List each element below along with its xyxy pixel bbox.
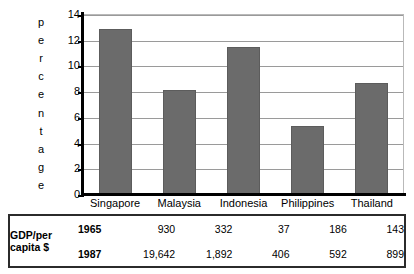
value-cell: 1,892 bbox=[175, 241, 232, 266]
x-axis-category-label: Malaysia bbox=[147, 196, 211, 210]
bar-chart: p e r c e n t a g e 02468101214 Singapor… bbox=[0, 0, 414, 206]
y-axis-title-letter: e bbox=[38, 32, 44, 49]
x-axis-category-labels: SingaporeMalaysiaIndonesiaPhilippinesTha… bbox=[83, 196, 404, 212]
gridline bbox=[83, 15, 403, 16]
x-axis-category-label: Indonesia bbox=[211, 196, 275, 210]
y-axis-title-letter: r bbox=[39, 50, 43, 67]
y-axis-tick-labels: 02468101214 bbox=[56, 0, 80, 206]
y-axis-title-letter: a bbox=[38, 141, 44, 158]
gdp-row-label-line1: GDP/per bbox=[10, 229, 78, 241]
y-axis-title-letter: t bbox=[39, 123, 42, 140]
y-axis-tick-label: 12 bbox=[56, 34, 80, 45]
value-cell: 143 bbox=[347, 216, 404, 241]
value-cell: 406 bbox=[232, 241, 289, 266]
gdp-table: GDP/per capita $ 1965 930 332 37 186 143… bbox=[10, 216, 404, 266]
y-axis-tick-label: 4 bbox=[56, 137, 80, 148]
bar bbox=[291, 126, 324, 195]
year-cell: 1965 bbox=[78, 216, 118, 241]
y-axis-tick-label: 8 bbox=[56, 86, 80, 97]
value-cell: 899 bbox=[347, 241, 404, 266]
gdp-row-label-line2: capita $ bbox=[10, 241, 78, 253]
value-cell: 186 bbox=[290, 216, 347, 241]
gdp-table-panel: GDP/per capita $ 1965 930 332 37 186 143… bbox=[8, 214, 406, 268]
y-axis-title-letter: e bbox=[38, 86, 44, 103]
y-axis-tick-label: 6 bbox=[56, 111, 80, 122]
y-axis-title-letter: p bbox=[38, 14, 44, 31]
x-axis-category-label: Philippines bbox=[276, 196, 340, 210]
value-cell: 930 bbox=[118, 216, 175, 241]
y-axis-tick-label: 0 bbox=[56, 189, 80, 200]
value-cell: 592 bbox=[290, 241, 347, 266]
bar bbox=[99, 29, 132, 195]
plot-area bbox=[83, 14, 404, 194]
y-axis-tick-label: 14 bbox=[56, 9, 80, 20]
y-axis-title-letter: c bbox=[38, 68, 44, 85]
bar bbox=[163, 90, 196, 195]
bar bbox=[227, 47, 260, 195]
year-cell: 1987 bbox=[78, 241, 118, 266]
value-cell: 332 bbox=[175, 216, 232, 241]
value-cell: 19,642 bbox=[118, 241, 175, 266]
x-axis-category-label: Thailand bbox=[340, 196, 404, 210]
y-axis-tick-label: 10 bbox=[56, 60, 80, 71]
y-axis-title: p e r c e n t a g e bbox=[33, 14, 49, 194]
y-axis-title-letter: n bbox=[38, 105, 44, 122]
bar bbox=[355, 83, 388, 195]
gdp-row-label: GDP/per capita $ bbox=[10, 216, 78, 266]
x-axis-category-label: Singapore bbox=[83, 196, 147, 210]
chart-figure: p e r c e n t a g e 02468101214 Singapor… bbox=[0, 0, 414, 274]
table-row: GDP/per capita $ 1965 930 332 37 186 143 bbox=[10, 216, 404, 241]
y-axis-title-letter: g bbox=[38, 159, 44, 176]
y-axis-line bbox=[81, 12, 84, 196]
y-axis-title-letter: e bbox=[38, 177, 44, 194]
value-cell: 37 bbox=[232, 216, 289, 241]
y-axis-tick-label: 2 bbox=[56, 163, 80, 174]
